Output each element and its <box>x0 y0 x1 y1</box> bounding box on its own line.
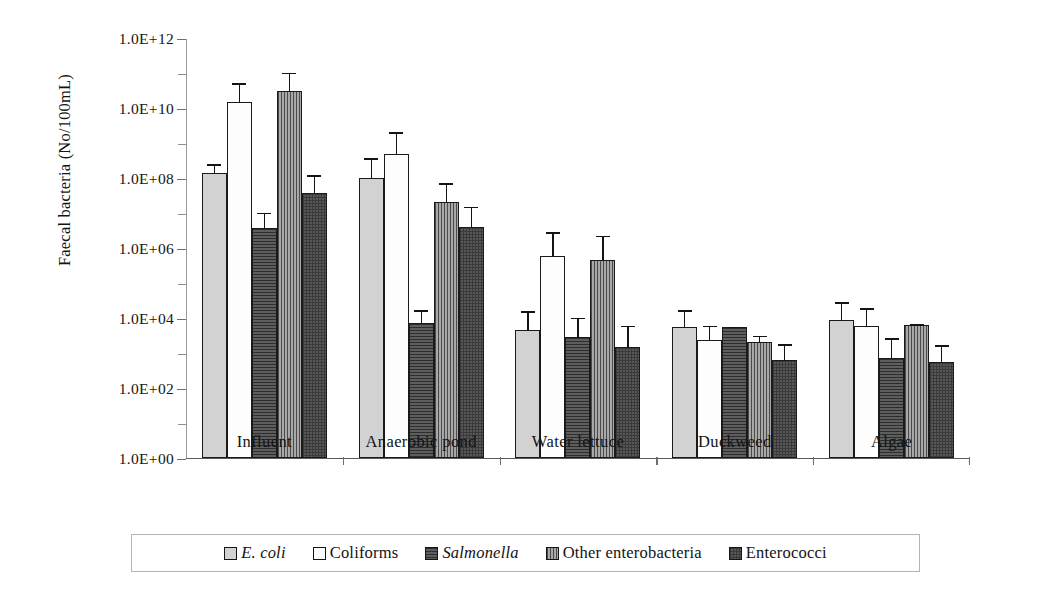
y-axis-title: Faecal bacteria (No/100mL) <box>55 40 75 300</box>
legend-label: Coliforms <box>330 543 399 563</box>
bar-group <box>813 39 970 458</box>
y-tick-label: 1.0E+12 <box>119 30 174 48</box>
error-bar-stem <box>866 308 867 326</box>
error-bar-cap <box>835 302 849 304</box>
y-tick <box>177 389 186 390</box>
bar-group <box>656 39 813 458</box>
error-bar-cap <box>207 164 221 166</box>
error-bar-stem <box>627 326 628 348</box>
x-axis-label: Algae <box>871 432 912 452</box>
error-bar-stem <box>371 158 372 179</box>
error-bar-cap <box>521 311 535 313</box>
x-axis-label: Influent <box>237 432 292 452</box>
error-bar-cap <box>571 318 585 320</box>
y-tick <box>177 39 186 40</box>
error-bar-cap <box>678 310 692 312</box>
error-bar-stem <box>784 344 785 360</box>
category-separator-tick <box>656 457 657 465</box>
legend-label: Enterococci <box>746 543 827 563</box>
error-bar-stem <box>552 232 553 256</box>
legend-item[interactable]: Salmonella <box>425 543 518 563</box>
error-bar-cap <box>703 326 717 328</box>
error-bar-cap <box>364 158 378 160</box>
x-axis-label: Water lettuce <box>532 432 624 452</box>
error-bar-cap <box>935 345 949 347</box>
legend-item[interactable]: Other enterobacteria <box>546 543 702 563</box>
error-bar-cap <box>464 207 478 209</box>
bar <box>359 178 384 458</box>
series-4-swatch <box>729 547 742 560</box>
error-bar-stem <box>602 236 603 261</box>
chart-legend: E. coliColiformsSalmonellaOther enteroba… <box>131 534 920 572</box>
y-tick-minor <box>178 214 186 215</box>
legend-item[interactable]: E. coli <box>224 543 285 563</box>
error-bar-cap <box>439 183 453 185</box>
bar-chart: Faecal bacteria (No/100mL) 1.0E+121.0E+1… <box>0 0 1044 606</box>
error-bar-stem <box>891 338 892 359</box>
y-tick-label: 1.0E+02 <box>119 380 174 398</box>
error-bar-cap <box>910 324 924 326</box>
error-bar-stem <box>314 175 315 194</box>
y-tick-label: 1.0E+08 <box>119 170 174 188</box>
legend-label: Other enterobacteria <box>563 543 702 563</box>
error-bar-cap <box>546 232 560 234</box>
bar <box>202 173 227 458</box>
y-tick-minor <box>178 424 186 425</box>
legend-label: Salmonella <box>442 543 518 563</box>
y-tick-label: 1.0E+10 <box>119 100 174 118</box>
bar <box>384 154 409 458</box>
bar-group <box>500 39 657 458</box>
x-axis-line <box>186 458 970 459</box>
y-tick-minor <box>178 74 186 75</box>
category-separator-tick <box>500 457 501 465</box>
y-tick-minor <box>178 284 186 285</box>
error-bar-cap <box>860 308 874 310</box>
series-0-swatch <box>224 547 237 560</box>
error-bar-stem <box>577 318 578 339</box>
error-bar-cap <box>389 132 403 134</box>
bar-group <box>343 39 500 458</box>
error-bar-cap <box>307 175 321 177</box>
plot-area: 1.0E+121.0E+101.0E+081.0E+061.0E+041.0E+… <box>186 39 970 459</box>
error-bar-cap <box>596 236 610 238</box>
error-bar-stem <box>446 183 447 203</box>
series-3-swatch <box>546 547 559 560</box>
bar <box>302 193 327 458</box>
bar <box>277 91 302 458</box>
legend-item[interactable]: Enterococci <box>729 543 827 563</box>
x-axis-label: Anaerobic pond <box>365 432 476 452</box>
x-axis-label: Duckweed <box>698 432 772 452</box>
error-bar-stem <box>289 73 290 93</box>
error-bar-cap <box>885 338 899 340</box>
legend-label: E. coli <box>241 543 285 563</box>
bar-group <box>186 39 343 458</box>
bar <box>772 360 797 458</box>
error-bar-stem <box>684 310 685 328</box>
bar <box>672 327 697 458</box>
category-separator-tick <box>813 457 814 465</box>
legend-item[interactable]: Coliforms <box>313 543 399 563</box>
y-tick <box>177 179 186 180</box>
category-separator-tick <box>969 457 970 465</box>
error-bar-stem <box>421 310 422 324</box>
error-bar-stem <box>396 132 397 155</box>
error-bar-stem <box>941 345 942 363</box>
error-bar-stem <box>264 213 265 229</box>
y-tick-minor <box>178 144 186 145</box>
error-bar-cap <box>728 327 742 329</box>
error-bar-cap <box>232 83 246 85</box>
bar <box>252 228 277 458</box>
y-tick-label: 1.0E+00 <box>119 450 174 468</box>
y-tick <box>177 459 186 460</box>
error-bar-stem <box>471 207 472 228</box>
y-tick-minor <box>178 354 186 355</box>
error-bar-stem <box>841 302 842 321</box>
error-bar-cap <box>282 73 296 75</box>
bar <box>459 227 484 458</box>
error-bar-stem <box>527 311 528 331</box>
y-tick-label: 1.0E+04 <box>119 310 174 328</box>
bar <box>540 256 565 458</box>
bar <box>829 320 854 458</box>
bar <box>434 202 459 458</box>
error-bar-cap <box>753 336 767 338</box>
